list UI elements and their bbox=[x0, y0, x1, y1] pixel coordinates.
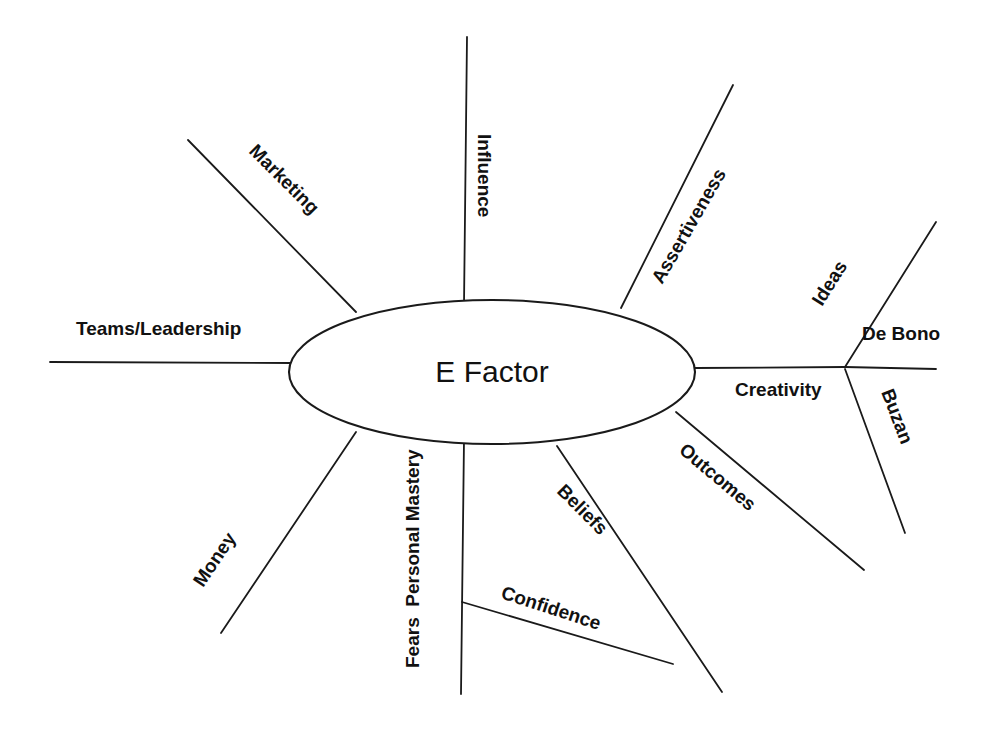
branch-line-outcomes[interactable] bbox=[676, 412, 864, 570]
branch-label-confidence[interactable]: Confidence bbox=[499, 582, 604, 634]
branch-line-fears-personal-mastery[interactable] bbox=[461, 440, 464, 694]
branch-label-teams-leadership[interactable]: Teams/Leadership bbox=[76, 318, 241, 339]
branch-line-beliefs[interactable] bbox=[557, 446, 722, 692]
branch-label-outcomes[interactable]: Outcomes bbox=[675, 439, 760, 515]
branch-label-beliefs[interactable]: Beliefs bbox=[553, 480, 612, 539]
branch-label-creativity[interactable]: Creativity bbox=[735, 379, 822, 400]
center-node-label: E Factor bbox=[435, 355, 548, 388]
branch-label-money[interactable]: Money bbox=[189, 528, 240, 590]
branch-label-fears-personal-mastery[interactable]: Fears Personal Mastery bbox=[402, 449, 423, 668]
branch-line-creativity[interactable] bbox=[695, 367, 845, 368]
branch-line-influence[interactable] bbox=[464, 37, 467, 305]
sub-branch-line-ideas[interactable] bbox=[845, 222, 936, 367]
mind-map-svg: E Factor Teams/Leadership Marketing Infl… bbox=[0, 0, 988, 735]
sub-branch-lines-group bbox=[845, 222, 936, 533]
branch-label-marketing[interactable]: Marketing bbox=[245, 140, 323, 218]
sub-branch-labels-group: Ideas De Bono Buzan bbox=[808, 257, 941, 447]
branch-line-money[interactable] bbox=[221, 432, 356, 633]
sub-branch-label-ideas[interactable]: Ideas bbox=[808, 257, 852, 309]
branch-label-influence[interactable]: Influence bbox=[474, 134, 495, 217]
sub-branch-label-buzan[interactable]: Buzan bbox=[877, 386, 917, 447]
branch-line-teams-leadership[interactable] bbox=[50, 362, 292, 363]
branch-label-assertiveness[interactable]: Assertiveness bbox=[647, 165, 730, 287]
mind-map-canvas: E Factor Teams/Leadership Marketing Infl… bbox=[0, 0, 988, 735]
sub-branch-label-de-bono[interactable]: De Bono bbox=[862, 323, 940, 344]
sub-branch-line-de-bono[interactable] bbox=[845, 367, 936, 369]
